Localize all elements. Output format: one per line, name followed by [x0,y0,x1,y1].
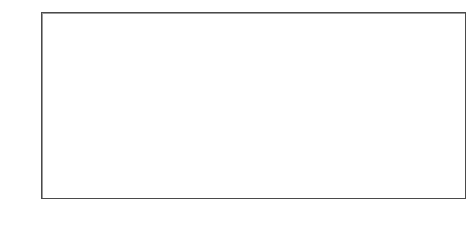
plot-area [41,12,466,199]
zero-vertical-axis [42,13,43,198]
scatter-plot-figure [0,0,475,250]
zero-horizontal-axis [42,13,465,14]
